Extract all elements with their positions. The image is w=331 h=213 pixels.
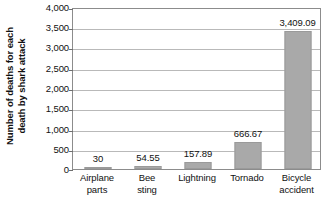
y-tick-label-500: 500 [24,145,69,155]
x-label-airplane-parts-line-1: Airplane [72,172,122,184]
bar-slot-airplane-parts: 30 [73,9,123,169]
x-label-bicycle-accident: Bicycle accident [272,172,321,196]
x-label-bee-sting-line-1: Bee [122,172,172,184]
bar-lightning[interactable] [185,162,212,169]
x-label-lightning-line-1: Lightning [172,172,222,184]
y-tick-label-2500: 2,500 [24,64,69,74]
bar-series: 30 54.55 157.89 666.67 3,409.09 [73,9,320,169]
bar-value-bee-sting: 54.55 [136,153,159,163]
y-tick-label-1500: 1,500 [24,104,69,114]
x-label-bicycle-accident-line-2: accident [272,184,321,196]
bar-tornado[interactable] [235,142,262,169]
bar-bee-sting[interactable] [135,166,162,169]
plot-area: 30 54.55 157.89 666.67 3,409.09 [72,8,321,170]
y-axis-title-line-1: Number of deaths for each [4,0,16,171]
y-tick-label-0: 0 [24,165,69,175]
y-tick-label-4000: 4,000 [24,3,69,13]
bar-value-bicycle-accident: 3,409.09 [279,18,315,28]
x-label-airplane-parts: Airplane parts [72,172,122,196]
y-tick-label-3000: 3,000 [24,43,69,53]
x-label-airplane-parts-line-2: parts [72,184,122,196]
bar-slot-bee-sting: 54.55 [123,9,173,169]
x-label-lightning: Lightning [172,172,222,184]
bar-airplane-parts[interactable] [85,167,112,169]
bar-slot-bicycle-accident: 3,409.09 [273,9,322,169]
x-axis-category-labels: Airplane parts Bee sting Lightning Torna… [72,172,321,212]
x-label-tornado: Tornado [222,172,272,184]
y-axis-tick-labels: 4,000 3,500 3,000 2,500 2,000 1,500 1,00… [24,0,69,180]
bar-value-lightning: 157.89 [184,149,212,159]
bar-bicycle-accident[interactable] [284,31,311,169]
bar-value-airplane-parts: 30 [93,154,103,164]
tickmark-0 [69,170,73,171]
x-label-bee-sting: Bee sting [122,172,172,196]
bar-slot-tornado: 666.67 [223,9,273,169]
x-label-tornado-line-1: Tornado [222,172,272,184]
x-label-bee-sting-line-2: sting [122,184,172,196]
bar-slot-lightning: 157.89 [173,9,223,169]
bar-value-tornado: 666.67 [234,129,262,139]
x-label-bicycle-accident-line-1: Bicycle [272,172,321,184]
y-tick-label-1000: 1,000 [24,125,69,135]
bar-chart: Number of deaths for each death by shark… [0,0,331,213]
y-tick-label-3500: 3,500 [24,23,69,33]
y-tick-label-2000: 2,000 [24,84,69,94]
